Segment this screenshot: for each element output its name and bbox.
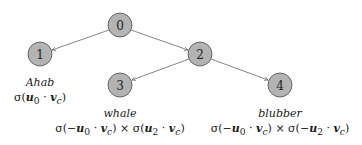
edges: [52, 30, 268, 80]
svg-text:3: 3: [116, 79, 124, 93]
leaf-label-ahab: Ahab σ(u0 · vc): [14, 76, 66, 108]
leaf-word: Ahab: [14, 76, 66, 90]
leaf-word: blubber: [211, 107, 350, 121]
svg-text:2: 2: [196, 48, 204, 62]
svg-text:1: 1: [36, 48, 44, 62]
edge-0-2: [131, 30, 188, 50]
edge-2-4: [211, 59, 268, 80]
leaf-label-blubber: blubber σ(−u0 · vc) × σ(−u2 · vc): [211, 107, 350, 139]
node-4: 4: [268, 73, 292, 97]
edge-2-3: [132, 59, 189, 80]
node-2: 2: [188, 42, 212, 66]
svg-text:0: 0: [116, 19, 124, 33]
node-0: 0: [108, 13, 132, 37]
node-1: 1: [28, 42, 52, 66]
edge-0-1: [52, 30, 109, 50]
leaf-formula: σ(−u0 · vc) × σ(u2 · vc): [55, 121, 184, 139]
leaf-label-whale: whale σ(−u0 · vc) × σ(u2 · vc): [55, 107, 184, 139]
leaf-formula: σ(u0 · vc): [14, 90, 66, 108]
svg-text:4: 4: [276, 79, 284, 93]
node-3: 3: [108, 73, 132, 97]
leaf-word: whale: [55, 107, 184, 121]
leaf-formula: σ(−u0 · vc) × σ(−u2 · vc): [211, 121, 350, 139]
